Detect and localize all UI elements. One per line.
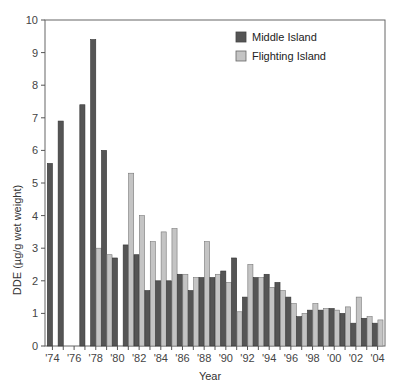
x-tick-label: '76 — [67, 352, 81, 364]
x-tick-label: '78 — [89, 352, 103, 364]
bar-middle-island — [297, 317, 302, 346]
bar-middle-island — [167, 281, 172, 346]
bar-flighting-island — [226, 282, 231, 346]
y-tick-label: 7 — [32, 112, 38, 124]
x-tick-label: '74 — [45, 352, 59, 364]
bar-flighting-island — [139, 216, 144, 346]
y-tick-label: 6 — [32, 144, 38, 156]
x-tick-label: '84 — [154, 352, 168, 364]
legend-swatch-flighting-island — [236, 51, 246, 61]
x-axis-title: Year — [199, 370, 222, 382]
bar-middle-island — [351, 323, 356, 346]
x-tick-label: '90 — [219, 352, 233, 364]
bar-flighting-island — [302, 313, 307, 346]
bar-flighting-island — [183, 274, 188, 346]
x-tick-label: '96 — [284, 352, 298, 364]
legend-swatch-middle-island — [236, 32, 246, 42]
bar-middle-island — [242, 297, 247, 346]
bar-flighting-island — [356, 297, 361, 346]
y-tick-label: 5 — [32, 177, 38, 189]
x-tick-label: '82 — [132, 352, 146, 364]
bar-flighting-island — [313, 304, 318, 346]
bar-middle-island — [329, 309, 334, 346]
x-tick-label: '88 — [197, 352, 211, 364]
y-tick-label: 2 — [32, 275, 38, 287]
bar-flighting-island — [204, 242, 209, 346]
bar-middle-island — [112, 258, 117, 346]
bar-flighting-island — [248, 265, 253, 347]
bar-middle-island — [101, 150, 106, 346]
bar-middle-island — [362, 318, 367, 346]
bar-middle-island — [199, 278, 204, 346]
bar-middle-island — [47, 163, 52, 346]
bars — [47, 40, 383, 346]
x-tick-label: '04 — [370, 352, 384, 364]
bar-middle-island — [134, 255, 139, 346]
bar-middle-island — [232, 258, 237, 346]
y-tick-label: 3 — [32, 242, 38, 254]
legend: Middle Island Flighting Island — [236, 31, 326, 62]
bar-flighting-island — [215, 274, 220, 346]
bar-flighting-island — [259, 278, 264, 346]
bar-flighting-island — [367, 317, 372, 346]
bar-flighting-island — [96, 248, 101, 346]
bar-flighting-island — [107, 255, 112, 346]
bar-middle-island — [156, 281, 161, 346]
y-tick-label: 4 — [32, 210, 38, 222]
bar-middle-island — [58, 121, 63, 346]
y-axis: 012345678910 — [26, 14, 45, 352]
y-tick-label: 1 — [32, 307, 38, 319]
bar-middle-island — [372, 323, 377, 346]
bar-flighting-island — [324, 309, 329, 346]
x-tick-label: '86 — [175, 352, 189, 364]
x-tick-label: '02 — [349, 352, 363, 364]
x-tick-label: '98 — [305, 352, 319, 364]
bar-middle-island — [91, 40, 96, 346]
bar-middle-island — [145, 291, 150, 346]
bar-middle-island — [318, 310, 323, 346]
bar-flighting-island — [378, 320, 383, 346]
bar-flighting-island — [345, 307, 350, 346]
bar-flighting-island — [335, 310, 340, 346]
bar-middle-island — [177, 274, 182, 346]
bar-flighting-island — [161, 232, 166, 346]
bar-middle-island — [286, 297, 291, 346]
y-tick-label: 10 — [26, 14, 38, 26]
y-tick-label: 0 — [32, 340, 38, 352]
bar-middle-island — [188, 291, 193, 346]
x-axis: '74'76'78'80'82'84'86'88'90'92'94'96'98'… — [45, 346, 385, 364]
bar-flighting-island — [291, 304, 296, 346]
x-tick-label: '00 — [327, 352, 341, 364]
bar-middle-island — [275, 282, 280, 346]
bar-flighting-island — [129, 173, 134, 346]
bar-middle-island — [221, 271, 226, 346]
bar-middle-island — [307, 310, 312, 346]
bar-middle-island — [264, 274, 269, 346]
y-tick-label: 8 — [32, 79, 38, 91]
x-tick-label: '92 — [240, 352, 254, 364]
bar-flighting-island — [172, 229, 177, 346]
y-axis-title: DDE (µg/g wet weight) — [11, 185, 23, 295]
bar-middle-island — [253, 278, 258, 346]
bar-flighting-island — [150, 242, 155, 346]
x-tick-label: '94 — [262, 352, 276, 364]
bar-flighting-island — [237, 312, 242, 346]
bar-middle-island — [123, 245, 128, 346]
y-tick-label: 9 — [32, 47, 38, 59]
bar-flighting-island — [280, 291, 285, 346]
bar-flighting-island — [269, 287, 274, 346]
bar-chart: 012345678910 '74'76'78'80'82'84'86'88'90… — [0, 0, 403, 392]
x-tick-label: '80 — [110, 352, 124, 364]
bar-flighting-island — [194, 278, 199, 346]
legend-label-middle-island: Middle Island — [252, 31, 317, 43]
bar-middle-island — [210, 278, 215, 346]
legend-label-flighting-island: Flighting Island — [252, 50, 326, 62]
bar-middle-island — [80, 105, 85, 346]
bar-middle-island — [340, 313, 345, 346]
